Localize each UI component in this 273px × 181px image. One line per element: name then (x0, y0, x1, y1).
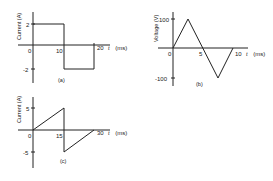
chart-c-caption: (c) (60, 158, 67, 164)
chart-c-ytick-label-5: 5 (26, 106, 30, 112)
chart-c-xtick-label-30: 30 (97, 130, 104, 136)
chart-a-waveform (33, 24, 94, 69)
chart-a-xtick-label-20: 20 (97, 45, 104, 51)
chart-c-ytick-label-neg5: -5 (23, 150, 29, 156)
chart-a-xtick-label-10: 10 (56, 48, 63, 54)
chart-a: 2 -2 0 10 20 t (ms) Current (A) (a) (16, 12, 127, 83)
chart-a-xlabel: t (ms) (108, 36, 127, 53)
chart-b-xlabel: t (ms) (246, 42, 265, 59)
waveform-figure: 2 -2 0 10 20 t (ms) Current (A) (a) 100 … (0, 0, 273, 181)
chart-c-xlabel: t (ms) (108, 121, 127, 138)
chart-a-caption: (a) (58, 77, 65, 83)
chart-c-xtick-label-0: 0 (28, 133, 32, 139)
chart-b-ytick-label-100: 100 (159, 17, 170, 23)
chart-b-caption: (b) (196, 81, 203, 87)
chart-a-ytick-label-neg2: -2 (23, 67, 29, 73)
chart-b-ylabel: Voltage (V) (153, 15, 159, 42)
chart-b-xtick-label-0: 0 (168, 51, 172, 57)
chart-b: 100 -100 0 5 10 t (ms) Voltage (V) (b) (153, 12, 265, 87)
chart-a-xtick-label-0: 0 (28, 48, 32, 54)
chart-c: 5 -5 0 15 30 t (ms) Current (A) (c) (16, 96, 127, 168)
chart-b-xtick-label-5: 5 (199, 51, 203, 57)
chart-c-ylabel: Current (A) (16, 96, 22, 123)
chart-a-ytick-label-2: 2 (26, 22, 30, 28)
chart-b-xtick-label-10: 10 (235, 51, 242, 57)
chart-c-xtick-label-15: 15 (56, 133, 63, 139)
chart-a-ylabel: Current (A) (16, 13, 22, 40)
chart-b-ytick-label-neg100: -100 (155, 76, 168, 82)
